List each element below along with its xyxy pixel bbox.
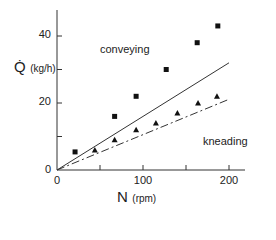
y-tick-label-40: 40 bbox=[31, 29, 51, 40]
fit-lines bbox=[57, 63, 229, 170]
x-tick-label-200: 200 bbox=[214, 175, 244, 186]
y-axis-label-symbol: Q̇ bbox=[14, 58, 26, 75]
x-tick-label-0: 0 bbox=[42, 175, 72, 186]
annotation-kneading: kneading bbox=[203, 136, 248, 147]
x-axis-label: N (rpm) bbox=[117, 189, 156, 205]
y-tick-label-20: 20 bbox=[31, 96, 51, 107]
x-axis-label-symbol: N bbox=[117, 188, 128, 205]
square-marker-icon bbox=[112, 114, 117, 119]
square-marker-icon bbox=[164, 67, 169, 72]
x-tick-label-100: 100 bbox=[128, 175, 158, 186]
triangle-marker-icon bbox=[174, 110, 180, 116]
annotation-conveying: conveying bbox=[100, 44, 150, 55]
triangle-marker-icon bbox=[195, 100, 201, 106]
y-axis-label: Q̇ (kg/h) bbox=[14, 59, 56, 75]
conveying-theory-line bbox=[57, 63, 229, 170]
square-marker-icon bbox=[73, 149, 78, 154]
x-axis-label-unit: (rpm) bbox=[132, 193, 156, 204]
y-axis-label-unit: (kg/h) bbox=[30, 63, 56, 74]
square-marker-icon bbox=[134, 94, 139, 99]
triangle-marker-icon bbox=[214, 93, 220, 99]
y-tick-label-0: 0 bbox=[31, 164, 51, 175]
square-marker-icon bbox=[195, 40, 200, 45]
triangle-marker-icon bbox=[133, 127, 139, 133]
triangle-marker-icon bbox=[112, 137, 118, 143]
square-marker-icon bbox=[215, 23, 220, 28]
triangle-marker-icon bbox=[153, 120, 159, 126]
